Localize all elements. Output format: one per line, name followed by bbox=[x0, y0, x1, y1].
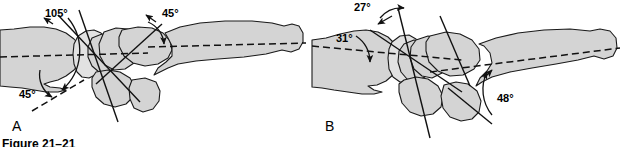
bone-trapezium-b bbox=[399, 77, 443, 116]
angle-label-45-right-a: 45° bbox=[162, 7, 179, 19]
angle-label-48-b: 48° bbox=[497, 92, 514, 104]
panel-b-group: 27° 31° 48° B bbox=[312, 1, 620, 138]
angle-label-27-b: 27° bbox=[354, 1, 371, 13]
bone-radius-b bbox=[312, 30, 400, 94]
panel-letter-b: B bbox=[325, 118, 334, 134]
bone-metacarpal-shaft-a bbox=[154, 21, 303, 75]
arrow-45-right-a bbox=[146, 15, 156, 22]
angle-label-105-a: 105° bbox=[45, 7, 68, 19]
panel-a-group: 105° 45° 45° A bbox=[0, 7, 306, 134]
bone-distal-block-b bbox=[441, 82, 481, 121]
angle-label-45-left-a: 45° bbox=[19, 88, 36, 100]
bone-metacarpal-shaft-b bbox=[476, 29, 617, 86]
panel-letter-a: A bbox=[12, 118, 22, 134]
wrist-lateral-tracing-figure: 105° 45° 45° A bbox=[0, 0, 624, 147]
figure-container: 105° 45° 45° A bbox=[0, 0, 624, 147]
angle-label-31-b: 31° bbox=[336, 32, 353, 44]
